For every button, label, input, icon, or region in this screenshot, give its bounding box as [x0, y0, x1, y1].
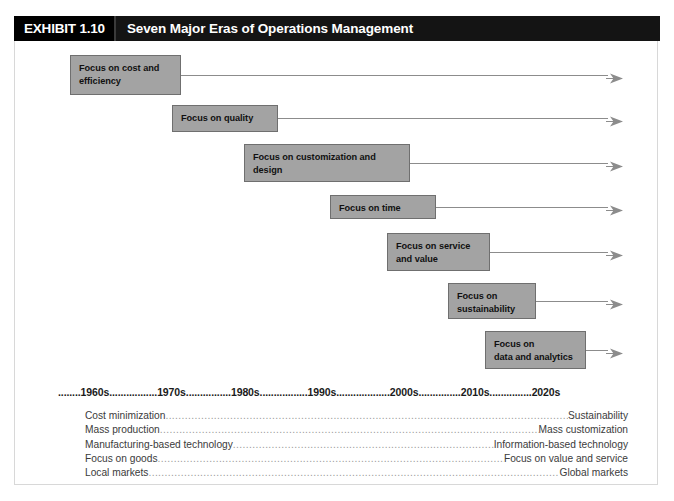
era-box-label: Focus on time: [339, 203, 401, 213]
dotted-leader: ........................................…: [148, 466, 559, 480]
exhibit-number-label: EXHIBIT 1.10: [14, 16, 114, 41]
comparison-right-label: Mass customization: [539, 423, 628, 437]
era-arrow-line: [490, 252, 608, 253]
comparison-right-label: Information-based technology: [494, 438, 628, 452]
era-box-label-line2: and value: [396, 253, 489, 266]
comparison-left-label: Local markets: [85, 466, 148, 480]
comparison-right-label: Global markets: [559, 466, 628, 480]
era-box-focus-on-cost-and-efficiency: Focus on cost andefficiency: [70, 55, 181, 95]
dotted-leader: ........................................…: [233, 438, 494, 452]
comparison-row: Manufacturing-based technology..........…: [85, 438, 628, 452]
dotted-leader: ........................................…: [158, 452, 504, 466]
comparison-right-label: Sustainability: [568, 409, 628, 423]
arrow-right-icon: [606, 296, 624, 314]
arrow-right-icon: [606, 158, 624, 176]
dotted-leader: ........................................…: [160, 423, 539, 437]
exhibit-figure: EXHIBIT 1.10 Seven Major Eras of Operati…: [0, 0, 674, 501]
era-box-label: Focus on customization and: [253, 152, 376, 162]
era-box-label-line2: design: [253, 164, 409, 177]
era-arrow-line: [181, 75, 608, 76]
comparison-row: Cost minimization.......................…: [85, 409, 628, 423]
comparison-row: Focus on goods..........................…: [85, 452, 628, 466]
era-box-focus-on-data-and-analytics: Focus ondata and analytics: [485, 331, 586, 369]
era-box-focus-on-sustainability: Focus onsustainability: [448, 283, 536, 319]
arrow-right-icon: [606, 202, 624, 220]
era-box-focus-on-customization-and-design: Focus on customization anddesign: [244, 144, 410, 182]
comparison-row: Local markets...........................…: [85, 466, 628, 480]
arrow-right-icon: [606, 113, 624, 131]
era-arrow-line: [586, 350, 608, 351]
comparison-row: Mass production.........................…: [85, 423, 628, 437]
arrow-right-icon: [606, 345, 624, 363]
comparison-list: Cost minimization.......................…: [85, 409, 628, 480]
comparison-left-label: Manufacturing-based technology: [85, 438, 233, 452]
era-arrow-line: [436, 207, 608, 208]
comparison-left-label: Focus on goods: [85, 452, 158, 466]
era-box-label-line2: efficiency: [79, 75, 180, 88]
era-box-label: Focus on service: [396, 241, 470, 251]
dotted-leader: ........................................…: [165, 409, 568, 423]
era-box-label: Focus on cost and: [79, 63, 159, 73]
era-box-label: Focus on: [494, 339, 534, 349]
comparison-left-label: Cost minimization: [85, 409, 165, 423]
era-box-label-line2: sustainability: [457, 303, 535, 316]
comparison-left-label: Mass production: [85, 423, 160, 437]
era-arrow-line: [536, 301, 608, 302]
arrow-right-icon: [606, 247, 624, 265]
era-arrow-line: [410, 163, 608, 164]
exhibit-title: Seven Major Eras of Operations Managemen…: [116, 16, 413, 41]
exhibit-header: EXHIBIT 1.10 Seven Major Eras of Operati…: [14, 16, 660, 41]
era-box-focus-on-service-and-value: Focus on serviceand value: [387, 233, 490, 271]
era-arrow-line: [278, 118, 608, 119]
era-box-label-line2: data and analytics: [494, 351, 585, 364]
era-box-focus-on-time: Focus on time: [330, 195, 436, 219]
timeline-axis: ........1960s.................1970s.....…: [58, 386, 618, 398]
era-box-label: Focus on quality: [181, 113, 253, 123]
comparison-right-label: Focus on value and service: [504, 452, 628, 466]
arrow-right-icon: [606, 70, 624, 88]
era-box-focus-on-quality: Focus on quality: [172, 105, 278, 132]
era-box-label: Focus on: [457, 291, 497, 301]
